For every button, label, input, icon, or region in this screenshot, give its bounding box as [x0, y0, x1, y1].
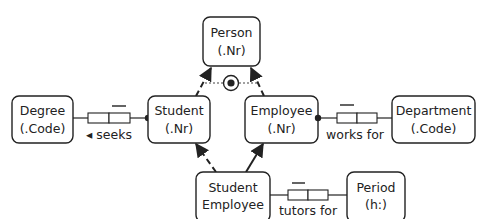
fact-type-works-for[interactable]: works for	[315, 105, 392, 142]
entity-department-name: Department	[396, 103, 472, 118]
entity-employee-name: Employee	[251, 103, 313, 118]
orm-diagram: Person (.Nr) Degree (.Code) ◂ seeks Stud…	[0, 0, 484, 219]
role-box-student[interactable]	[109, 113, 130, 123]
entity-employee-refmode: (.Nr)	[267, 121, 295, 136]
entity-person-refmode: (.Nr)	[217, 43, 245, 58]
role-box-employee[interactable]	[337, 113, 357, 123]
entity-period[interactable]: Period (h:)	[347, 172, 405, 219]
fact-type-works-for-label: works for	[326, 127, 385, 142]
fact-type-seeks[interactable]: ◂ seeks	[73, 106, 151, 142]
entity-department[interactable]: Department (.Code)	[392, 96, 475, 143]
role-box-student-employee[interactable]	[288, 190, 308, 200]
subtype-link-employee-person	[251, 68, 264, 96]
entity-student-name: Student	[154, 103, 203, 118]
entity-degree-refmode: (.Code)	[20, 121, 66, 136]
role-box-degree[interactable]	[88, 113, 109, 123]
role-box-period[interactable]	[308, 190, 328, 200]
entity-student[interactable]: Student (.Nr)	[148, 96, 210, 143]
entity-student-refmode: (.Nr)	[165, 121, 193, 136]
fact-type-seeks-label: ◂ seeks	[86, 127, 132, 142]
entity-student-employee-line1: Student	[208, 180, 257, 195]
subtype-link-studentemployee-employee	[246, 144, 263, 172]
subtype-link-studentemployee-student	[196, 144, 216, 172]
fact-type-tutors-for-label: tutors for	[279, 203, 338, 218]
entity-person-name: Person	[210, 25, 252, 40]
fact-type-tutors-for[interactable]: tutors for	[270, 183, 347, 218]
entity-employee[interactable]: Employee (.Nr)	[245, 96, 318, 143]
entity-student-employee[interactable]: Student Employee	[196, 172, 270, 219]
role-box-department[interactable]	[357, 113, 377, 123]
entity-degree-name: Degree	[20, 103, 66, 118]
entity-department-refmode: (.Code)	[411, 121, 457, 136]
entity-student-employee-line2: Employee	[202, 197, 264, 212]
entity-person[interactable]: Person (.Nr)	[203, 17, 260, 66]
subtype-link-student-person	[196, 68, 211, 96]
entity-degree[interactable]: Degree (.Code)	[12, 96, 73, 143]
exclusive-or-constraint[interactable]	[205, 76, 258, 91]
entity-period-name: Period	[357, 180, 396, 195]
entity-period-refmode: (h:)	[365, 197, 387, 212]
